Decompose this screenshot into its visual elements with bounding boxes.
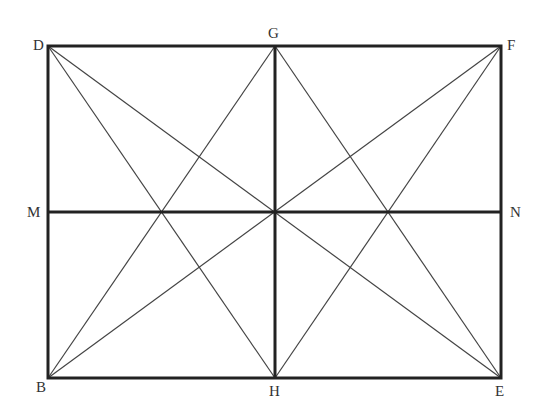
label-E: E — [495, 383, 504, 399]
label-B: B — [36, 379, 46, 395]
rectangle-diagram: D G F M N B H E — [0, 0, 546, 416]
label-N: N — [510, 204, 521, 220]
label-M: M — [27, 204, 40, 220]
label-H: H — [269, 383, 280, 399]
label-F: F — [507, 37, 515, 53]
label-G: G — [268, 25, 279, 41]
label-D: D — [33, 37, 44, 53]
